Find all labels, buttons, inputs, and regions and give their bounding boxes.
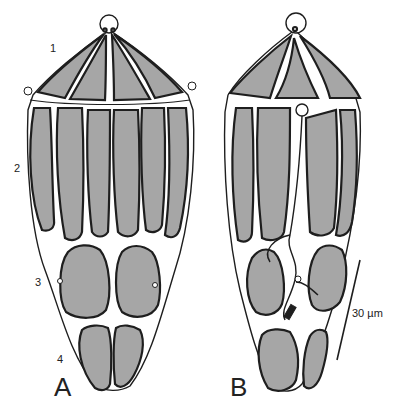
scale-bar-label: 30 µm (352, 307, 383, 319)
panel-a-drawing (24, 15, 196, 390)
panel-b-drawing (225, 13, 361, 391)
panel-label-b: B (230, 372, 247, 403)
tier-label-2: 2 (14, 162, 20, 174)
tier-label-4: 4 (57, 353, 63, 365)
tier-label-1: 1 (50, 42, 56, 54)
figure-drawing (0, 0, 400, 406)
panel-label-a: A (54, 372, 71, 403)
tier-label-3: 3 (35, 276, 41, 288)
